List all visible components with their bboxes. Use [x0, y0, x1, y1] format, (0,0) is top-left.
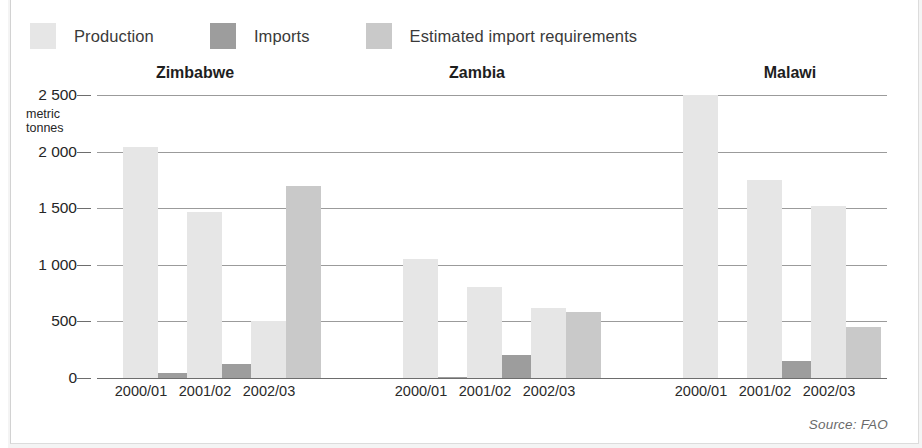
legend-item-estimated-import-requirements: Estimated import requirements — [366, 23, 638, 49]
y-tick-label-500: 500 — [20, 312, 77, 330]
legend-item-imports: Imports — [210, 23, 310, 49]
gridline-2500 — [97, 95, 887, 96]
tick-1000 — [77, 265, 91, 266]
x-tick-label-malawi-2000-01: 2000/01 — [675, 383, 727, 399]
plot-area — [97, 95, 887, 378]
y-tick-label-1500: 1 500 — [20, 199, 77, 217]
x-tick-label-zambia-2000-01: 2000/01 — [395, 383, 447, 399]
group-heading-zambia: Zambia — [449, 64, 505, 82]
x-tick-label-zimbabwe-2000-01: 2000/01 — [115, 383, 167, 399]
group-heading-malawi: Malawi — [764, 64, 816, 82]
bar-zimbabwe-2002-03-production — [251, 321, 286, 378]
x-tick-label-zimbabwe-2001-02: 2001/02 — [179, 383, 231, 399]
gridline-2000 — [97, 152, 887, 153]
tick-0 — [77, 378, 91, 379]
bar-zimbabwe-2002-03-estimated — [286, 186, 321, 378]
y-tick-label-1000: 1 000 — [20, 256, 77, 274]
tick-2500 — [77, 95, 91, 96]
y-tick-label-2500: 2 500 — [20, 86, 77, 104]
bar-zambia-2001-02-production — [467, 287, 502, 378]
y-tick-label-0: 0 — [20, 369, 77, 387]
x-tick-label-malawi-2002-03: 2002/03 — [803, 383, 855, 399]
bar-malawi-2002-03-estimated — [846, 327, 881, 378]
chart-legend: Production Imports Estimated import requ… — [30, 23, 693, 49]
x-tick-label-zambia-2001-02: 2001/02 — [459, 383, 511, 399]
y-tick-label-2000: 2 000 — [20, 143, 77, 161]
bar-zimbabwe-2000-01-production — [123, 147, 158, 378]
bar-malawi-2000-01-production — [683, 95, 718, 378]
legend-label-imports: Imports — [254, 27, 310, 46]
bar-zambia-2000-01-production — [403, 259, 438, 378]
legend-swatch-production-icon — [30, 23, 56, 49]
group-heading-zimbabwe: Zimbabwe — [156, 64, 234, 82]
y-axis-unit-label: metric tonnes — [26, 108, 64, 135]
legend-swatch-estimated-icon — [366, 23, 392, 49]
x-tick-label-zambia-2002-03: 2002/03 — [523, 383, 575, 399]
tick-1500 — [77, 208, 91, 209]
legend-item-production: Production — [30, 23, 154, 49]
legend-label-production: Production — [74, 27, 154, 46]
tick-500 — [77, 321, 91, 322]
bar-malawi-2001-02-production — [747, 180, 782, 378]
legend-swatch-imports-icon — [210, 23, 236, 49]
x-tick-label-zimbabwe-2002-03: 2002/03 — [243, 383, 295, 399]
bar-zambia-2002-03-production — [531, 308, 566, 378]
bar-malawi-2002-03-production — [811, 206, 846, 378]
x-axis-baseline — [97, 378, 887, 379]
source-credit: Source: FAO — [809, 417, 888, 432]
bar-zimbabwe-2001-02-production — [187, 212, 222, 378]
bar-zambia-2002-03-estimated — [566, 312, 601, 378]
legend-label-estimated-import-requirements: Estimated import requirements — [410, 27, 638, 46]
chart-figure: Production Imports Estimated import requ… — [0, 0, 922, 448]
tick-2000 — [77, 152, 91, 153]
x-tick-label-malawi-2001-02: 2001/02 — [739, 383, 791, 399]
